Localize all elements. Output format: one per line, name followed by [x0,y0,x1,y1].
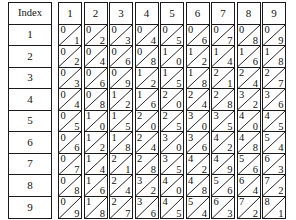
tens-digit: 3 [214,111,219,122]
ones-digit: 6 [202,35,207,46]
ones-digit: 5 [125,121,130,132]
index-row-label: 6 [9,132,51,154]
lattice-cell: 06 [85,68,107,90]
lattice-cell: 06 [110,46,132,68]
tens-digit: 1 [265,46,270,57]
ones-digit: 0 [176,142,181,153]
ones-digit: 9 [278,35,283,46]
column-header: 3 [110,3,132,25]
lattice-cell: 10 [85,111,107,133]
tens-digit: 0 [265,25,270,36]
lattice-cell: 15 [161,68,183,90]
lattice-cell: 24 [136,132,158,154]
tens-digit: 1 [112,132,117,143]
tens-digit: 2 [163,111,168,122]
ones-digit: 1 [278,208,283,219]
tens-digit: 4 [163,197,168,208]
tens-digit: 1 [188,68,193,79]
multiplier-column: 7071421283542495663 [211,2,235,219]
tens-digit: 4 [188,175,193,186]
ones-digit: 4 [202,99,207,110]
multiplication-lattice-table: Index 1 2 3 4 5 6 7 8 9 1010203040506070… [0,0,296,220]
tens-digit: 0 [239,25,244,36]
lattice-cell: 08 [136,46,158,68]
multiplier-column: 4040812162024283236 [135,2,159,219]
lattice-cell: 42 [187,154,209,176]
lattice-cell: 12 [136,68,158,90]
tens-digit: 1 [188,46,193,57]
lattice-cell: 05 [161,25,183,47]
tens-digit: 4 [214,132,219,143]
tens-digit: 1 [86,175,91,186]
ones-digit: 0 [176,56,181,67]
lattice-cell: 15 [110,111,132,133]
tens-digit: 5 [214,175,219,186]
ones-digit: 0 [176,185,181,196]
ones-digit: 3 [125,35,130,46]
lattice-cell: 27 [110,197,132,219]
lattice-cell: 02 [59,46,81,68]
lattice-cell: 24 [187,89,209,111]
ones-digit: 0 [176,99,181,110]
ones-digit: 6 [202,142,207,153]
tens-digit: 0 [61,46,66,57]
ones-digit: 4 [100,56,105,67]
ones-digit: 5 [74,121,79,132]
ones-digit: 6 [227,185,232,196]
ones-digit: 4 [74,99,79,110]
tens-digit: 0 [61,197,66,208]
lattice-cell: 09 [110,68,132,90]
tens-digit: 3 [188,111,193,122]
tens-digit: 3 [265,89,270,100]
lattice-cell: 40 [238,111,260,133]
ones-digit: 3 [74,78,79,89]
ones-digit: 0 [253,121,258,132]
index-row-label: 9 [9,197,51,219]
lattice-cell: 08 [59,175,81,197]
tens-digit: 3 [163,132,168,143]
column-header: 1 [59,3,81,25]
tens-digit: 1 [163,68,168,79]
ones-digit: 0 [100,121,105,132]
lattice-cell: 54 [187,197,209,219]
ones-digit: 9 [227,164,232,175]
lattice-cell: 12 [187,46,209,68]
lattice-cell: 56 [212,175,234,197]
ones-digit: 3 [227,208,232,219]
lattice-cell: 05 [59,111,81,133]
tens-digit: 4 [265,111,270,122]
tens-digit: 0 [61,175,66,186]
lattice-cell: 09 [59,197,81,219]
ones-digit: 2 [125,99,130,110]
tens-digit: 0 [61,89,66,100]
lattice-cell: 36 [263,89,285,111]
ones-digit: 4 [100,164,105,175]
column-header: 4 [136,3,158,25]
ones-digit: 6 [100,78,105,89]
ones-digit: 5 [176,208,181,219]
ones-digit: 7 [125,208,130,219]
tens-digit: 0 [188,25,193,36]
lattice-cell: 07 [212,25,234,47]
ones-digit: 2 [278,185,283,196]
tens-digit: 2 [188,89,193,100]
multiplier-column: 8081624324048566472 [237,2,261,219]
ones-digit: 0 [151,121,156,132]
tens-digit: 0 [86,25,91,36]
lattice-cell: 32 [238,89,260,111]
tens-digit: 1 [112,111,117,122]
ones-digit: 4 [253,185,258,196]
tens-digit: 2 [137,154,142,165]
index-row-label: 5 [9,111,51,133]
lattice-cell: 20 [161,89,183,111]
lattice-cell: 72 [238,197,260,219]
ones-digit: 5 [176,164,181,175]
column-header: 6 [187,3,209,25]
tens-digit: 3 [239,89,244,100]
lattice-cell: 49 [212,154,234,176]
ones-digit: 8 [151,164,156,175]
tens-digit: 2 [214,68,219,79]
tens-digit: 0 [61,68,66,79]
ones-digit: 6 [151,99,156,110]
lattice-cell: 28 [136,154,158,176]
